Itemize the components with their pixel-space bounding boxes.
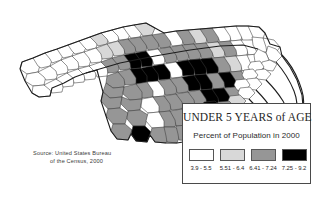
source-line-1: Source: United States Bureau <box>33 149 137 157</box>
legend-swatch-1 <box>189 149 214 161</box>
source-attribution: Source: United States Bureau of the Cens… <box>33 149 137 165</box>
legend-label-3: 6.41 - 7.24 <box>249 165 277 171</box>
map-figure: Source: United States Bureau of the Cens… <box>0 0 316 199</box>
legend-class-2: 5.51 - 6.4 <box>218 149 246 171</box>
legend-class-4: 7.25 - 9.2 <box>280 149 308 171</box>
legend-class-list: 3.9 - 5.5 5.51 - 6.4 6.41 - 7.24 7.25 - … <box>187 149 308 171</box>
legend-class-1: 3.9 - 5.5 <box>187 149 215 171</box>
legend-subtitle: Percent of Population in 2000 <box>183 131 310 140</box>
map-legend: UNDER 5 YEARS of AGE Percent of Populati… <box>182 103 311 184</box>
legend-class-3: 6.41 - 7.24 <box>249 149 277 171</box>
source-line-2: of the Census, 2000 <box>33 157 137 165</box>
legend-swatch-2 <box>220 149 245 161</box>
legend-label-1: 3.9 - 5.5 <box>190 165 211 171</box>
legend-label-2: 5.51 - 6.4 <box>220 165 244 171</box>
legend-label-4: 7.25 - 9.2 <box>282 165 306 171</box>
legend-swatch-4 <box>282 149 307 161</box>
legend-title: UNDER 5 YEARS of AGE <box>183 111 310 123</box>
legend-swatch-3 <box>251 149 276 161</box>
